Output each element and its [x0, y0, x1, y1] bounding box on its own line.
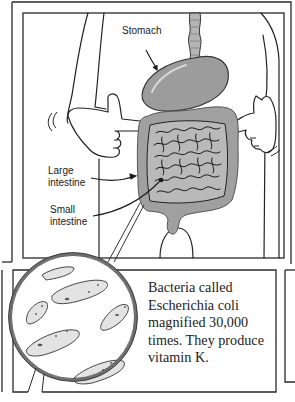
magnifier-lens [9, 253, 138, 393]
small-intestine [147, 121, 228, 203]
stomach [142, 56, 228, 111]
magnifier-pointer-lines [108, 203, 144, 262]
left-hand [68, 94, 146, 157]
esophagus [189, 13, 201, 60]
digestive-system-illustration: Stomach Large intestine Small intestine … [0, 0, 295, 402]
magnification-caption: Bacteria called Escherichia coli magnifi… [148, 279, 273, 367]
large-intestine-arrow [91, 174, 136, 180]
stomach-label: Stomach [122, 25, 161, 37]
stomach-arrow [146, 50, 157, 70]
motion-marks-left [48, 112, 57, 131]
small-intestine-label: Small intestine [50, 204, 87, 228]
large-intestine-label: Large intestine [48, 165, 85, 189]
